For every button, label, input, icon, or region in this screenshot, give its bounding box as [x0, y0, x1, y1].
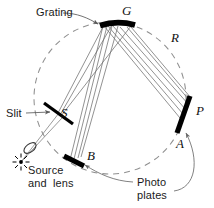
label-photo-plates-line2: plates — [137, 189, 167, 202]
point-label-g: G — [122, 3, 131, 19]
point-label-s: S — [61, 105, 68, 121]
ray-bundle-slit-to-grating — [58, 25, 131, 116]
concave-grating — [100, 23, 135, 26]
leader-slit — [26, 112, 50, 113]
point-label-p: P — [196, 103, 204, 119]
label-slit: Slit — [6, 107, 22, 120]
light-source-starburst — [13, 154, 30, 171]
point-label-a: A — [176, 136, 184, 152]
ray-bundle-grating-to-plate-b — [70, 26, 118, 160]
label-grating: Grating — [36, 6, 73, 19]
leader-photo-plates-b — [85, 165, 133, 182]
point-label-b: B — [87, 148, 95, 164]
label-source-line2: and lens — [28, 177, 74, 190]
spectrograph-diagram: Grating Slit Source and lens Photo plate… — [0, 0, 214, 208]
point-label-r: R — [171, 30, 179, 46]
label-photo-plates-line1: Photo — [137, 176, 166, 189]
label-source-line1: Source — [28, 164, 63, 177]
ray-bundle-source-to-slit — [21, 113, 62, 162]
